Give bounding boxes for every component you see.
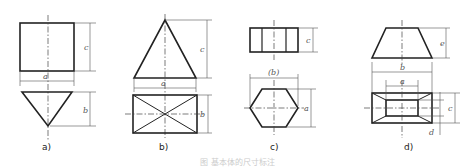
- dim-a: a: [161, 79, 166, 88]
- dim-d: d: [429, 128, 434, 137]
- dim-a: a: [304, 104, 309, 113]
- dim-c: c: [84, 43, 89, 52]
- panel-label-d: d): [404, 142, 413, 152]
- panel-label-c: c): [270, 142, 278, 152]
- panel-label-b: b): [159, 142, 168, 152]
- front-view-square: [20, 23, 74, 71]
- dim-c: c: [448, 104, 453, 113]
- panel-b: c a b b): [125, 14, 212, 152]
- figure-caption: 图 基本体的尺寸标注: [200, 157, 275, 167]
- top-view-triangle: [22, 92, 72, 126]
- dim-b: b: [83, 106, 88, 115]
- panel-c: c (b) a c): [244, 20, 318, 152]
- dimensioning-diagram: c a b a) c a b b): [0, 0, 474, 168]
- dim-a: a: [400, 77, 405, 86]
- dim-a: a: [43, 72, 48, 81]
- dim-c: c: [200, 45, 205, 54]
- dim-c: c: [306, 36, 311, 45]
- dim-e: e: [440, 39, 445, 48]
- dim-b: b: [200, 110, 205, 119]
- panel-label-a: a): [42, 142, 51, 152]
- dim-b: b: [400, 63, 405, 72]
- dim-b-ref: (b): [268, 68, 279, 77]
- panel-a: c a b a): [20, 15, 96, 152]
- panel-d: e b a c d d): [364, 20, 460, 152]
